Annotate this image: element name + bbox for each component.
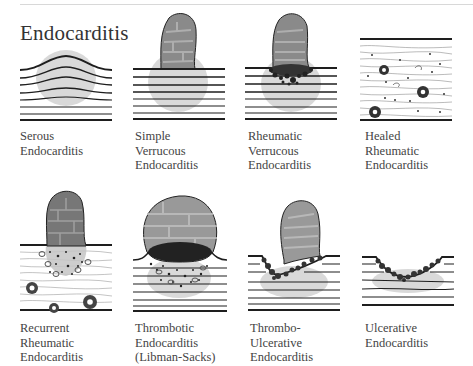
- label-thrombo-ulcerative: Thrombo- Ulcerative Endocarditis: [250, 321, 313, 365]
- ulcerative-illustration: [362, 255, 454, 312]
- panel-recurrent-rheumatic: [20, 190, 112, 312]
- panel-thrombotic: [133, 190, 227, 312]
- recurrent-rheumatic-illustration: [20, 190, 112, 312]
- label-ulcerative: Ulcerative Endocarditis: [365, 321, 428, 350]
- thrombo-ulcerative-illustration: [248, 200, 340, 312]
- label-thrombotic: Thrombotic Endocarditis (Libman-Sacks): [135, 321, 216, 365]
- panel-thrombo-ulcerative: [248, 200, 340, 312]
- label-serous: Serous Endocarditis: [20, 129, 83, 158]
- simple-verrucous-illustration: [133, 12, 225, 122]
- panel-serous: [20, 50, 112, 122]
- panel-healed-rheumatic: [360, 38, 452, 122]
- thrombotic-illustration: [133, 190, 227, 312]
- label-simple-verrucous: Simple Verrucous Endocarditis: [135, 129, 198, 173]
- panel-rheumatic-verrucous: [245, 12, 337, 122]
- label-recurrent-rheumatic: Recurrent Rheumatic Endocarditis: [20, 321, 83, 365]
- panel-simple-verrucous: [133, 12, 225, 122]
- panel-ulcerative: [362, 255, 454, 312]
- label-rheumatic-verrucous: Rheumatic Verrucous Endocarditis: [248, 129, 311, 173]
- rheumatic-verrucous-illustration: [245, 12, 337, 122]
- healed-rheumatic-illustration: [360, 38, 452, 122]
- top-rule: [20, 4, 473, 5]
- figure-title: Endocarditis: [20, 21, 129, 46]
- label-healed-rheumatic: Healed Rheumatic Endocarditis: [365, 129, 428, 173]
- serous-illustration: [20, 50, 112, 122]
